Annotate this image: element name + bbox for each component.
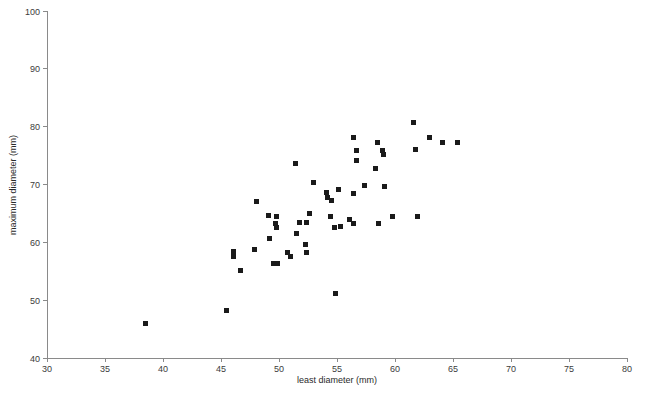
x-tick-label: 40 — [158, 364, 168, 374]
data-point — [271, 261, 276, 266]
data-point — [304, 250, 309, 255]
data-point — [231, 249, 236, 254]
data-point — [415, 214, 420, 219]
data-point — [288, 254, 293, 259]
data-point — [224, 308, 229, 313]
data-point — [238, 268, 243, 273]
data-point — [411, 120, 416, 125]
data-point — [294, 231, 299, 236]
data-point — [351, 221, 356, 226]
data-point — [266, 213, 271, 218]
y-tick-label: 50 — [30, 296, 40, 306]
x-tick-label: 35 — [100, 364, 110, 374]
data-point — [333, 291, 338, 296]
x-tick-label: 70 — [506, 364, 516, 374]
data-point — [252, 247, 257, 252]
y-tick-label: 90 — [30, 64, 40, 74]
data-point — [274, 225, 279, 230]
data-point — [354, 148, 359, 153]
y-tick-label: 40 — [30, 354, 40, 364]
data-point — [267, 236, 272, 241]
data-point — [328, 214, 333, 219]
x-tick-label: 30 — [42, 364, 52, 374]
data-point — [293, 161, 298, 166]
data-point — [382, 184, 387, 189]
data-point — [274, 214, 279, 219]
data-point — [373, 166, 378, 171]
data-point — [275, 261, 280, 266]
data-point — [375, 140, 380, 145]
data-point — [390, 214, 395, 219]
plot-canvas: 4050607080901003035404550556065707580 le… — [0, 0, 647, 400]
data-point — [307, 211, 312, 216]
x-tick-label: 65 — [448, 364, 458, 374]
data-point — [338, 224, 343, 229]
data-point — [332, 225, 337, 230]
data-point — [354, 158, 359, 163]
data-point — [381, 152, 386, 157]
data-point — [376, 221, 381, 226]
data-point — [427, 135, 432, 140]
x-tick-label: 50 — [274, 364, 284, 374]
data-point — [231, 254, 236, 259]
data-point — [304, 220, 309, 225]
data-point — [254, 199, 259, 204]
y-tick-label: 60 — [30, 238, 40, 248]
y-tick-label: 100 — [25, 7, 40, 17]
data-point — [440, 140, 445, 145]
data-point — [303, 242, 308, 247]
data-point — [351, 135, 356, 140]
scatter-plot-figure: 4050607080901003035404550556065707580 le… — [0, 0, 647, 400]
x-tick-label: 45 — [216, 364, 226, 374]
x-tick-label: 75 — [564, 364, 574, 374]
y-tick-label: 80 — [30, 122, 40, 132]
data-points-group — [143, 120, 460, 327]
data-point — [455, 140, 460, 145]
data-point — [329, 198, 334, 203]
x-tick-label: 80 — [622, 364, 632, 374]
data-point — [351, 191, 356, 196]
data-point — [336, 187, 341, 192]
y-tick-label: 70 — [30, 180, 40, 190]
y-axis-title: maximum diameter (mm) — [8, 135, 18, 235]
data-point — [413, 147, 418, 152]
data-point — [362, 183, 367, 188]
data-point — [143, 321, 148, 326]
x-axis-title: least diameter (mm) — [297, 375, 377, 385]
x-tick-label: 60 — [390, 364, 400, 374]
data-point — [297, 220, 302, 225]
data-point — [311, 180, 316, 185]
data-point — [324, 190, 329, 195]
x-tick-label: 55 — [332, 364, 342, 374]
